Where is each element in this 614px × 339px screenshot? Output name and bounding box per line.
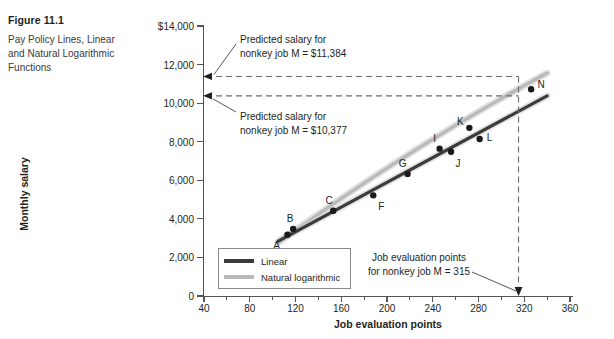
legend-label-linear: Linear <box>261 256 287 267</box>
x-tick-280 <box>478 296 479 302</box>
x-tick-label-80: 80 <box>244 303 255 314</box>
x-tick-60 <box>226 296 227 300</box>
x-tick-100 <box>272 296 273 300</box>
data-point-N <box>528 86 534 92</box>
data-point-K <box>466 125 472 131</box>
annotation-job-points-line2: for nonkey job M = 315 <box>368 265 470 279</box>
data-point-A <box>284 231 290 237</box>
x-tick-label-160: 160 <box>333 303 350 314</box>
plot-area: 02,0004,0006,0008,00010,00012,000$14,000… <box>0 0 614 339</box>
y-tick-label-8000: 8,000 <box>120 136 194 147</box>
x-tick-label-40: 40 <box>198 303 209 314</box>
data-point-label-K: K <box>457 115 464 126</box>
x-tick-220 <box>409 296 410 300</box>
y-tick-label-0: 0 <box>120 291 194 302</box>
y-tick-label-14000: $14,000 <box>120 21 194 32</box>
data-point-label-J: J <box>456 157 461 168</box>
annotation-predicted-low-line2: nonkey job M = $10,377 <box>240 124 347 138</box>
legend-swatch-linear-icon <box>224 259 254 262</box>
x-tick-40 <box>203 296 204 302</box>
y-tick-label-6000: 6,000 <box>120 175 194 186</box>
x-tick-260 <box>455 296 456 300</box>
x-tick-80 <box>249 296 250 302</box>
data-point-L <box>476 136 482 142</box>
legend-item-natural-logarithmic: Natural logarithmic <box>224 269 345 285</box>
data-point-label-F: F <box>378 201 384 212</box>
data-point-G <box>404 171 410 177</box>
x-tick-360 <box>569 296 570 302</box>
annotation-predicted-high-line2: nonkey job M = $11,384 <box>240 47 346 61</box>
x-tick-label-360: 360 <box>562 303 579 314</box>
series-natural-logarithmic-glow <box>278 73 547 242</box>
data-point-label-G: G <box>399 157 407 168</box>
x-tick-140 <box>318 296 319 300</box>
y-tick-4000 <box>197 218 204 219</box>
x-tick-160 <box>341 296 342 302</box>
annotation-predicted-low-line1: Predicted salary for <box>240 110 347 124</box>
x-tick-180 <box>364 296 365 300</box>
x-tick-label-280: 280 <box>470 303 487 314</box>
x-tick-240 <box>432 296 433 302</box>
leader-line-predicted-low <box>213 99 236 112</box>
y-tick-2000 <box>197 257 204 258</box>
y-tick-6000 <box>197 180 204 181</box>
x-tick-label-240: 240 <box>424 303 441 314</box>
y-tick-10000 <box>197 103 204 104</box>
data-point-J <box>448 149 454 155</box>
figure-container: Figure 11.1 Pay Policy Lines, Linear and… <box>0 0 614 339</box>
x-tick-120 <box>295 296 296 302</box>
y-tick-label-12000: 12,000 <box>120 59 194 70</box>
data-point-label-N: N <box>537 79 544 90</box>
legend-item-linear: Linear <box>224 253 345 269</box>
data-point-I <box>436 145 442 151</box>
arrow-job-m-points-icon <box>515 287 523 296</box>
y-tick-label-10000: 10,000 <box>120 98 194 109</box>
annotation-predicted-high: Predicted salary for nonkey job M = $11,… <box>240 33 346 60</box>
legend-label-natural-logarithmic: Natural logarithmic <box>261 272 340 283</box>
x-axis-title: Job evaluation points <box>203 318 573 330</box>
x-tick-label-320: 320 <box>516 303 533 314</box>
data-point-F <box>370 192 376 198</box>
annotation-predicted-high-line1: Predicted salary for <box>240 33 346 47</box>
leader-line-job-points <box>472 272 516 291</box>
y-tick-label-2000: 2,000 <box>120 252 194 263</box>
x-tick-300 <box>501 296 502 300</box>
legend-swatch-log-icon <box>224 275 254 278</box>
x-tick-label-200: 200 <box>379 303 396 314</box>
y-tick-14000 <box>197 25 204 26</box>
annotation-job-points: Job evaluation points for nonkey job M =… <box>368 251 470 278</box>
x-axis-line <box>203 296 573 297</box>
data-point-label-L: L <box>487 132 493 143</box>
x-tick-label-120: 120 <box>287 303 304 314</box>
data-point-C <box>330 208 336 214</box>
x-tick-200 <box>386 296 387 302</box>
chart-legend: Linear Natural logarithmic <box>218 248 351 289</box>
y-axis-title: Monthly salary <box>18 146 30 242</box>
x-tick-340 <box>547 296 548 300</box>
data-point-label-C: C <box>326 194 333 205</box>
y-tick-label-4000: 4,000 <box>120 213 194 224</box>
y-tick-8000 <box>197 141 204 142</box>
leader-line-predicted-high <box>214 44 236 74</box>
data-point-label-I: I <box>433 132 436 143</box>
data-point-B <box>290 226 296 232</box>
annotation-job-points-line1: Job evaluation points <box>368 251 470 265</box>
data-point-label-B: B <box>287 212 294 223</box>
y-tick-12000 <box>197 64 204 65</box>
annotation-predicted-low: Predicted salary for nonkey job M = $10,… <box>240 110 347 137</box>
x-tick-320 <box>524 296 525 302</box>
series-natural-logarithmic-line <box>278 73 547 242</box>
